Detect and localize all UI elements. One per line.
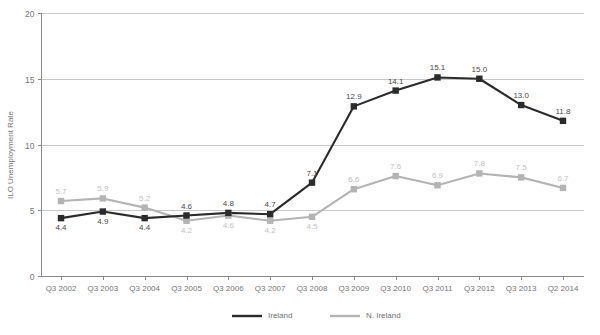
marker-n-ireland-5 [267, 218, 273, 224]
series-markers-ireland [58, 74, 566, 221]
unemployment-rate-line-chart: 05101520 Q3 2002Q3 2003Q3 2004Q3 2005Q3 … [0, 0, 600, 335]
x-tick-label-12: Q2 2014 [548, 284, 579, 293]
marker-n-ireland-11 [518, 174, 524, 180]
data-label-n-ireland-2: 5.2 [139, 194, 151, 203]
data-label-n-ireland-4: 4.6 [223, 221, 235, 230]
marker-ireland-11 [518, 102, 524, 108]
x-tick-label-0: Q3 2002 [46, 284, 77, 293]
x-tick-label-4: Q3 2006 [213, 284, 244, 293]
marker-ireland-2 [141, 215, 147, 221]
polyline-ireland [61, 77, 563, 218]
y-tick-label-15: 15 [25, 75, 35, 85]
data-label-ireland-3: 4.6 [181, 202, 193, 211]
x-tick-label-5: Q3 2007 [255, 284, 286, 293]
y-axis-title: ILO Unemployment Rate [6, 110, 15, 199]
y-tick-label-5: 5 [30, 206, 35, 216]
data-label-ireland-5: 4.7 [265, 200, 277, 209]
data-label-ireland-1: 4.9 [97, 217, 109, 226]
marker-ireland-9 [434, 74, 440, 80]
y-tick-label-10: 10 [25, 141, 35, 151]
x-tick-label-7: Q3 2009 [338, 284, 369, 293]
x-tick-label-11: Q3 2013 [506, 284, 537, 293]
x-tick-label-2: Q3 2004 [129, 284, 160, 293]
marker-n-ireland-2 [141, 204, 147, 210]
data-label-n-ireland-6: 4.5 [306, 222, 318, 231]
marker-ireland-1 [100, 208, 106, 214]
x-axis-tick-labels-group: Q3 2002Q3 2003Q3 2004Q3 2005Q3 2006Q3 20… [46, 284, 579, 293]
marker-ireland-5 [267, 211, 273, 217]
chart-container: 05101520 Q3 2002Q3 2003Q3 2004Q3 2005Q3 … [0, 0, 600, 335]
data-label-ireland-12: 11.8 [556, 107, 572, 116]
data-label-ireland-7: 12.9 [346, 92, 362, 101]
x-tick-label-6: Q3 2008 [297, 284, 328, 293]
legend-label-n-ireland: N. Ireland [366, 311, 401, 320]
marker-ireland-10 [476, 76, 482, 82]
data-label-n-ireland-5: 4.2 [265, 226, 277, 235]
marker-n-ireland-6 [309, 214, 315, 220]
data-label-n-ireland-1: 5.9 [97, 184, 109, 193]
marker-n-ireland-8 [392, 173, 398, 179]
data-label-ireland-8: 14.1 [388, 77, 404, 86]
marker-ireland-4 [225, 210, 231, 216]
marker-n-ireland-12 [560, 185, 566, 191]
marker-n-ireland-7 [351, 186, 357, 192]
marker-n-ireland-0 [58, 198, 64, 204]
marker-n-ireland-1 [100, 195, 106, 201]
data-label-ireland-9: 15.1 [430, 63, 446, 72]
data-label-ireland-0: 4.4 [55, 223, 67, 232]
data-label-ireland-11: 13.0 [513, 91, 529, 100]
x-tick-label-1: Q3 2003 [87, 284, 118, 293]
data-label-n-ireland-9: 6.9 [432, 171, 444, 180]
y-tick-label-0: 0 [30, 272, 35, 282]
x-tick-label-10: Q3 2012 [464, 284, 495, 293]
marker-ireland-8 [392, 87, 398, 93]
y-axis-tick-labels-group: 05101520 [25, 9, 35, 282]
marker-ireland-7 [351, 103, 357, 109]
data-label-ireland-2: 4.4 [139, 223, 151, 232]
marker-n-ireland-9 [434, 182, 440, 188]
data-label-ireland-10: 15.0 [472, 65, 488, 74]
y-tick-marks-group [38, 14, 42, 277]
series-line-ireland [61, 77, 563, 218]
marker-ireland-6 [309, 179, 315, 185]
marker-n-ireland-10 [476, 170, 482, 176]
data-label-n-ireland-3: 4.2 [181, 226, 193, 235]
data-label-ireland-4: 4.8 [223, 199, 235, 208]
x-tick-label-9: Q3 2011 [422, 284, 453, 293]
x-tick-label-8: Q3 2010 [380, 284, 411, 293]
data-label-n-ireland-11: 7.5 [516, 163, 528, 172]
marker-ireland-12 [560, 118, 566, 124]
marker-ireland-3 [183, 212, 189, 218]
data-label-n-ireland-0: 5.7 [55, 187, 67, 196]
marker-ireland-0 [58, 215, 64, 221]
data-label-n-ireland-8: 7.6 [390, 162, 402, 171]
chart-legend: IrelandN. Ireland [232, 311, 401, 320]
data-label-n-ireland-12: 6.7 [557, 174, 569, 183]
legend-label-ireland: Ireland [268, 311, 292, 320]
data-label-n-ireland-10: 7.8 [474, 159, 486, 168]
data-label-ireland-6: 7.1 [306, 169, 318, 178]
data-label-n-ireland-7: 6.6 [348, 175, 360, 184]
y-tick-label-20: 20 [25, 9, 35, 19]
x-tick-label-3: Q3 2005 [171, 284, 202, 293]
